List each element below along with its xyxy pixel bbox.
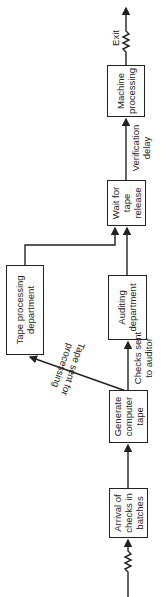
input-line <box>125 540 131 597</box>
checks-sent-label: Checks sentto auditor <box>132 328 154 388</box>
generate-label: Generatecomputertape <box>112 393 145 440</box>
verification-label: Verificationdelay <box>130 119 152 177</box>
tape-processing-label: Tape processingdepartment <box>14 268 36 352</box>
machine-label: Machineprocessing <box>115 68 137 114</box>
tape-to-wait <box>25 228 115 265</box>
exit-line <box>123 8 129 65</box>
wait-label: Wait fortaperelease <box>110 183 143 223</box>
exit-label: Exit <box>110 28 121 48</box>
arrival-label: Arrival ofchecks inbatches <box>112 491 145 535</box>
